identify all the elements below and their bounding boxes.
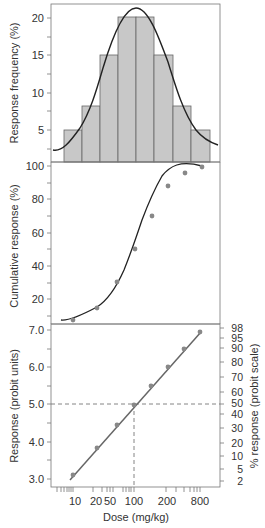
- right-tick-label: 40: [231, 408, 243, 420]
- y-axis-ticks: [47, 330, 51, 479]
- y-tick-label: 80: [32, 193, 44, 205]
- y-tick-label: 60: [32, 227, 44, 239]
- right-tick-label: 90: [231, 342, 243, 354]
- data-point: [182, 347, 187, 352]
- right-tick-label: 5: [237, 463, 243, 475]
- y-axis-label: Cumulative response (%): [8, 184, 20, 308]
- y-tick-label: 40: [32, 260, 44, 272]
- data-point: [133, 247, 138, 252]
- panel-probit-response: 7.0 6.0 5.0 4.0 3.0 Response (probit uni…: [8, 322, 260, 523]
- data-point: [166, 365, 171, 370]
- y-tick-label: 7.0: [29, 324, 44, 336]
- data-point: [95, 306, 100, 311]
- data-point: [183, 171, 188, 176]
- histogram-bar: [173, 106, 191, 162]
- data-point: [71, 318, 76, 323]
- data-points: [71, 165, 205, 323]
- y-tick-label: 15: [32, 49, 44, 61]
- probit-figure: 20 15 10 5 Response frequency (%): [0, 0, 265, 528]
- y-axis-label: Response (probit units): [8, 349, 20, 463]
- data-point: [150, 214, 155, 219]
- y-axis-ticks: [47, 166, 51, 316]
- y-tick-label: 20: [32, 12, 44, 24]
- data-point: [166, 184, 171, 189]
- histogram-bars: [64, 17, 210, 162]
- data-point: [200, 165, 205, 170]
- x-tick-label: 50: [104, 495, 116, 507]
- x-tick-label: 10: [69, 495, 81, 507]
- y-tick-label: 5.0: [29, 398, 44, 410]
- data-point: [95, 446, 100, 451]
- histogram-bar: [136, 17, 154, 162]
- y-tick-label: 10: [32, 87, 44, 99]
- y-tick-label: 20: [32, 293, 44, 305]
- panel-frequency-histogram: 20 15 10 5 Response frequency (%): [8, 4, 220, 162]
- x-tick-label: 20: [90, 495, 102, 507]
- histogram-bar: [82, 106, 100, 162]
- right-tick-label: 20: [231, 437, 243, 449]
- data-point: [149, 384, 154, 389]
- y-tick-label: 5: [38, 124, 44, 136]
- sigmoid-curve: [61, 164, 202, 321]
- data-point: [198, 330, 203, 335]
- y-tick-label: 3.0: [29, 473, 44, 485]
- data-point: [132, 403, 137, 408]
- data-point: [71, 473, 76, 478]
- x-tick-label: 100: [125, 495, 143, 507]
- x-tick-label: 800: [191, 495, 209, 507]
- right-tick-label: 10: [231, 450, 243, 462]
- right-axis-ticks: [220, 328, 224, 481]
- right-tick-label: 80: [231, 356, 243, 368]
- y-axis-ticks: [47, 18, 51, 149]
- histogram-bar: [118, 17, 136, 162]
- y-tick-label: 6.0: [29, 361, 44, 373]
- data-point: [115, 280, 120, 285]
- right-tick-label: 2: [237, 475, 243, 487]
- x-tick-label: 200: [158, 495, 176, 507]
- right-axis-label: % response (probit scale): [248, 344, 260, 469]
- data-point: [115, 423, 120, 428]
- histogram-bar: [64, 130, 82, 162]
- x-axis-ticks: [57, 487, 200, 492]
- right-tick-label: 30: [231, 422, 243, 434]
- y-tick-label: 100: [26, 160, 44, 172]
- panel-cumulative-response: 100 80 60 40 20 Cumulative response (%): [8, 160, 220, 324]
- right-tick-label: 70: [231, 371, 243, 383]
- y-tick-label: 4.0: [29, 436, 44, 448]
- y-axis-label: Response frequency (%): [8, 22, 20, 143]
- x-axis-label: Dose (mg/kg): [103, 511, 169, 523]
